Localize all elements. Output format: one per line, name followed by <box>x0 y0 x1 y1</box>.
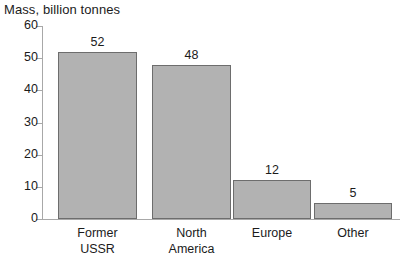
bar-value-label: 48 <box>152 48 231 63</box>
bar <box>314 203 392 219</box>
bar <box>233 180 311 219</box>
bar-value-label: 5 <box>314 186 392 201</box>
y-axis-line <box>42 26 43 219</box>
y-tick-label: 20 <box>24 147 38 162</box>
bar <box>152 65 231 219</box>
y-tick-label: 60 <box>24 18 38 33</box>
bar-group: 12Europe <box>233 26 311 219</box>
x-axis-category-label: Other <box>300 225 405 241</box>
y-tick-label: 10 <box>24 179 38 194</box>
plot-area: 0102030405060 52Former USSR48North Ameri… <box>42 26 400 219</box>
bar-value-label: 12 <box>233 163 311 178</box>
y-tick-label: 50 <box>24 50 38 65</box>
bar-group: 5Other <box>314 26 392 219</box>
bar <box>58 52 137 219</box>
x-axis-category-label: Former USSR <box>44 225 151 257</box>
x-axis-line <box>42 219 400 220</box>
y-tick-label: 0 <box>31 211 38 226</box>
bar-chart-figure: Mass, billion tonnes 0102030405060 52For… <box>0 0 405 264</box>
bar-group: 48North America <box>152 26 231 219</box>
bar-group: 52Former USSR <box>58 26 137 219</box>
y-tick-label: 30 <box>24 115 38 130</box>
chart-title: Mass, billion tonnes <box>4 2 120 18</box>
bar-value-label: 52 <box>58 35 137 50</box>
y-tick-label: 40 <box>24 82 38 97</box>
